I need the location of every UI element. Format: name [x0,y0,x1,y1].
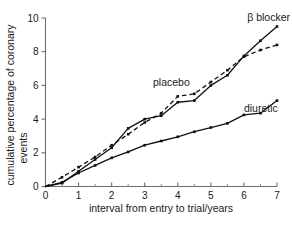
series-marker [160,140,163,143]
series-marker [61,181,64,184]
series-marker [160,112,163,115]
series-marker [110,144,113,147]
series-marker [210,81,213,84]
coronary-events-line-chart: 0246810 01234567 β blockerplacebodiureti… [0,0,292,226]
series-marker [143,144,146,147]
series-marker [176,135,179,138]
series-marker [61,176,64,179]
series-marker [127,133,130,136]
series-marker [193,130,196,133]
series-marker [94,164,97,167]
chart-figure: 0246810 01234567 β blockerplacebodiureti… [0,0,292,226]
y-axis-ticks: 0246810 [27,13,45,193]
series-marker [226,122,229,125]
series-marker [77,166,80,169]
x-tick-label: 7 [274,190,280,201]
series-marker [176,95,179,98]
series-marker [276,44,279,47]
y-tick-label: 6 [33,80,39,91]
series-marker [110,146,113,149]
series-marker [110,157,113,160]
x-tick-label: 5 [208,190,214,201]
series-marker [77,172,80,175]
y-tick-label: 8 [33,46,39,57]
x-tick-label: 1 [76,190,82,201]
y-axis-title-line2: events [17,133,29,164]
series-marker [210,126,213,129]
x-tick-label: 3 [142,190,148,201]
series-marker [226,69,229,72]
series-marker [243,114,246,117]
series-marker [143,118,146,121]
x-tick-label: 2 [109,190,115,201]
y-axis-title-line1: cumulative percentage of coronary [4,24,16,186]
y-tick-label: 10 [27,13,39,24]
y-tick-label: 2 [33,147,39,158]
series-marker [259,39,262,42]
series-marker [210,84,213,87]
series-marker [94,156,97,159]
series-annotations-group: β blockerplacebodiuretic [153,11,291,114]
x-axis-title: interval from entry to trial/years [89,202,233,214]
x-tick-label: 0 [43,190,49,201]
series-marker [193,99,196,102]
series-marker [193,93,196,96]
series-label-β-blocker: β blocker [247,11,290,23]
series-marker [276,25,279,28]
series-marker [127,151,130,154]
series-label-diuretic: diuretic [244,102,278,114]
y-tick-label: 0 [33,181,39,192]
series-marker [127,127,130,130]
series-marker [143,121,146,124]
series-marker [259,49,262,52]
x-tick-label: 4 [175,190,181,201]
series-label-placebo: placebo [153,76,190,88]
series-marker [176,101,179,104]
series-marker [243,55,246,58]
series-marker [94,158,97,161]
series-marker [160,114,163,117]
axes-group [46,18,278,187]
x-tick-label: 6 [241,190,247,201]
series-marker [226,74,229,77]
y-tick-label: 4 [33,114,39,125]
series-line-β-blocker [46,26,278,186]
